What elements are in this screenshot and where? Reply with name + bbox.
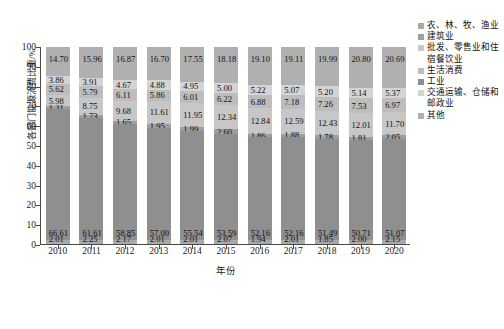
y-axis-ticks: 0102030405060708090100 — [0, 0, 36, 329]
bar-segment[interactable]: 16.70 — [147, 47, 171, 80]
bar-stack[interactable]: 19.995.207.2612.431.7851.491.85 — [315, 47, 339, 244]
bar-segment-label: 11.95 — [183, 110, 202, 119]
legend-item[interactable]: 生活消费 — [418, 65, 504, 76]
bar-segment[interactable]: 51.07 — [382, 139, 406, 240]
bar-segment[interactable]: 7.53 — [349, 98, 373, 113]
legend-item[interactable]: 建筑业 — [418, 31, 504, 42]
bar-segment[interactable]: 16.87 — [113, 47, 137, 80]
bar-segment[interactable]: 18.18 — [214, 47, 238, 83]
bar-segment[interactable]: 5.14 — [349, 88, 373, 98]
bar-segment[interactable]: 5.79 — [79, 86, 103, 97]
bar-segment[interactable]: 51.49 — [315, 139, 339, 240]
y-axis-tick-label: 100 — [2, 42, 36, 52]
legend-item[interactable]: 农、林、牧、渔业 — [418, 20, 504, 31]
bar-stack[interactable]: 15.963.915.798.751.7361.612.25 — [79, 47, 103, 244]
bar-segment-label: 19.99 — [318, 55, 337, 64]
bar-segment[interactable]: 20.69 — [382, 47, 406, 88]
bar-segment[interactable]: 4.95 — [180, 82, 204, 92]
bar-stack[interactable]: 17.554.956.0111.951.9955.542.01 — [180, 47, 204, 244]
bar-segment[interactable]: 2.01 — [281, 240, 305, 244]
bar-segment[interactable]: 6.22 — [214, 93, 238, 105]
bar-segment[interactable]: 20.80 — [349, 47, 373, 88]
x-axis-tick-mark — [192, 245, 193, 249]
bar-segment[interactable]: 5.86 — [147, 90, 171, 102]
bar-segment[interactable]: 2.01 — [180, 240, 204, 244]
bar-segment[interactable]: 3.86 — [46, 76, 70, 84]
bar-stack[interactable]: 19.105.226.8812.841.8652.161.94 — [248, 47, 272, 244]
bar-segment[interactable]: 5.00 — [214, 83, 238, 93]
bar-segment[interactable]: 2.01 — [147, 240, 171, 244]
bar-segment[interactable]: 14.70 — [46, 47, 70, 76]
bar-segment[interactable]: 6.11 — [113, 89, 137, 101]
bar-segment-label: 19.10 — [251, 55, 270, 64]
bar-segment[interactable]: 2.15 — [382, 240, 406, 244]
bar-segment[interactable]: 2.25 — [79, 240, 103, 244]
bar-segment[interactable]: 57.00 — [147, 128, 171, 240]
bar-segment-label: 15.96 — [82, 55, 101, 64]
bar-segment-label: 2.00 — [352, 235, 367, 244]
bar-segment[interactable]: 5.20 — [315, 86, 339, 96]
bar-segment[interactable]: 50.71 — [349, 140, 373, 240]
bar-segment[interactable]: 4.88 — [147, 80, 171, 90]
bar-segment[interactable]: 58.85 — [113, 124, 137, 240]
bar-stack[interactable]: 20.695.376.9711.702.0551.072.15 — [382, 47, 406, 244]
bar-segment-label: 14.70 — [49, 55, 68, 64]
bar-segment[interactable]: 2.17 — [113, 240, 137, 244]
bar-segment[interactable]: 52.16 — [248, 137, 272, 240]
legend: 农、林、牧、渔业建筑业批发、零售业和住宿餐饮业生活消费工业交通运输、仓储和邮政业… — [418, 20, 504, 121]
bar-stack[interactable]: 20.805.147.5312.011.8150.712.00 — [349, 47, 373, 244]
bar-segment[interactable]: 53.59 — [214, 134, 238, 240]
bar-segment-label: 12.34 — [217, 113, 236, 122]
bar-segment[interactable]: 17.55 — [180, 47, 204, 82]
bar-stack[interactable]: 16.704.885.8611.611.9557.002.01 — [147, 47, 171, 244]
bar-segment[interactable]: 15.96 — [79, 47, 103, 78]
bar-segment[interactable]: 1.94 — [248, 240, 272, 244]
bar-segment-label: 7.53 — [352, 101, 367, 110]
bar-segment[interactable]: 7.18 — [281, 95, 305, 109]
bar-segment[interactable]: 4.67 — [113, 80, 137, 89]
bar-segment[interactable]: 2.00 — [349, 240, 373, 244]
bar-segment[interactable]: 1.85 — [315, 240, 339, 244]
bar-segment[interactable]: 6.01 — [180, 91, 204, 103]
bar-stack[interactable]: 14.703.865.625.981.2166.612.01 — [46, 47, 70, 244]
legend-item[interactable]: 工业 — [418, 76, 504, 87]
bar-segment-label: 17.55 — [183, 55, 202, 64]
bar-segment-label: 11.70 — [385, 119, 404, 128]
bar-stack[interactable]: 18.185.006.2212.342.6053.592.07 — [214, 47, 238, 244]
legend-item[interactable]: 交通运输、仓储和邮政业 — [418, 87, 504, 109]
bar-segment[interactable]: 66.61 — [46, 109, 70, 240]
bar-segment[interactable]: 3.91 — [79, 78, 103, 86]
legend-item[interactable]: 其他 — [418, 110, 504, 121]
bar-segment[interactable]: 55.54 — [180, 131, 204, 240]
y-axis-tick-label: 60 — [2, 121, 36, 131]
bar-segment[interactable]: 6.97 — [382, 98, 406, 112]
x-axis-tick-mark — [394, 245, 395, 249]
bar-segment-label: 20.69 — [385, 55, 404, 64]
bar-segment-label: 16.87 — [116, 55, 135, 64]
legend-item[interactable]: 批发、零售业和住宿餐饮业 — [418, 42, 504, 64]
bar-segment[interactable]: 19.10 — [248, 47, 272, 85]
legend-item-label: 农、林、牧、渔业 — [427, 20, 504, 31]
x-axis-tick-mark — [125, 245, 126, 249]
bar-segment[interactable]: 7.26 — [315, 97, 339, 111]
bar-segment[interactable]: 61.61 — [79, 118, 103, 239]
legend-item-label: 生活消费 — [427, 65, 504, 76]
y-axis-tick-label: 20 — [2, 200, 36, 210]
x-axis-tick-mark — [327, 245, 328, 249]
bar-segment[interactable]: 5.62 — [46, 84, 70, 95]
bar-segment[interactable]: 52.16 — [281, 137, 305, 240]
bar-stack[interactable]: 19.115.077.1812.591.8852.162.01 — [281, 47, 305, 244]
bar-stack[interactable]: 16.874.676.119.681.6558.852.17 — [113, 47, 137, 244]
bar-segment[interactable]: 5.22 — [248, 85, 272, 95]
y-axis-tick-label: 50 — [2, 141, 36, 151]
bar-segment[interactable]: 2.01 — [46, 240, 70, 244]
legend-swatch-icon — [418, 113, 424, 119]
legend-item-label: 批发、零售业和住宿餐饮业 — [427, 42, 504, 64]
y-axis-tick-label: 30 — [2, 181, 36, 191]
bar-segment[interactable]: 19.99 — [315, 47, 339, 86]
bar-segment[interactable]: 2.07 — [214, 240, 238, 244]
bar-segment[interactable]: 5.07 — [281, 85, 305, 95]
bar-segment[interactable]: 6.88 — [248, 95, 272, 109]
bar-segment[interactable]: 5.37 — [382, 88, 406, 99]
bar-segment[interactable]: 19.11 — [281, 47, 305, 85]
